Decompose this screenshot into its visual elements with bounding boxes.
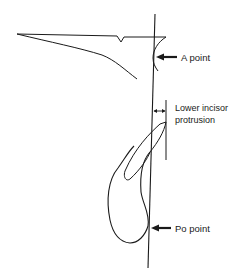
protrusion-label: protrusion bbox=[175, 114, 215, 126]
po-point-arrow-icon bbox=[151, 225, 171, 232]
protrusion-measure-arrow-icon bbox=[154, 109, 166, 113]
lower-incisor-label: Lower incisor bbox=[175, 102, 228, 114]
lower-incisor bbox=[124, 122, 166, 180]
a-point-arrow-icon bbox=[156, 54, 177, 61]
a-point-label: A point bbox=[181, 52, 210, 64]
po-point-label: Po point bbox=[175, 223, 210, 235]
diagram-canvas bbox=[0, 0, 248, 278]
mandibular-symphysis bbox=[108, 146, 150, 243]
a-point-contour bbox=[153, 37, 166, 71]
palatal-plane bbox=[17, 34, 166, 42]
maxilla-lower-contour bbox=[17, 34, 137, 79]
